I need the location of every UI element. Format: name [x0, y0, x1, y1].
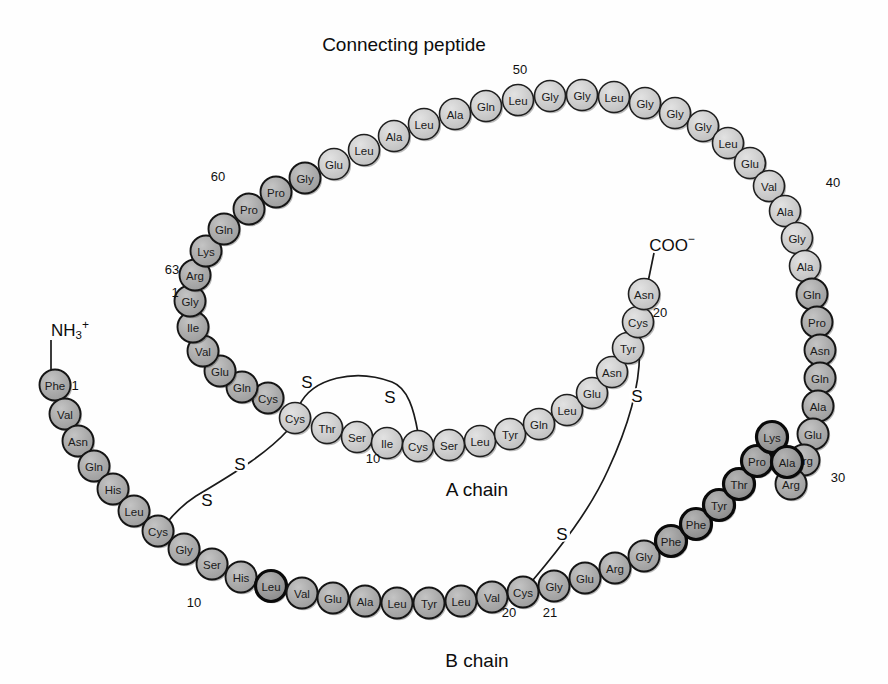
- disulfide-bond-a-b-interchain-1: [165, 430, 288, 525]
- connecting-peptide-residue: Ala: [790, 251, 823, 284]
- residue-label: Gly: [788, 233, 806, 245]
- residue-label: Leu: [387, 598, 406, 610]
- residue-label: Cys: [148, 526, 168, 538]
- sulfur-label: S: [301, 373, 312, 392]
- connecting-peptide-residue: Pro: [261, 177, 294, 210]
- residue-number: 20: [502, 605, 516, 620]
- b-chain-residue: Tyr: [414, 588, 447, 621]
- residue-label: Cys: [513, 587, 533, 599]
- b-chain-residue: Phe: [40, 370, 73, 403]
- connecting-peptide-residue: Gly: [630, 88, 663, 121]
- connecting-peptide-residue: Leu: [409, 109, 442, 142]
- residue-label: Tyr: [502, 429, 518, 441]
- residue-label: Thr: [730, 479, 747, 491]
- residue-label: Ser: [348, 432, 366, 444]
- residue-label: Ala: [386, 131, 403, 143]
- residue-number: 20: [653, 305, 667, 320]
- connecting-peptide-residue: Ala: [440, 99, 473, 132]
- residue-label: Tyr: [711, 500, 727, 512]
- b-chain-residue: Val: [287, 578, 320, 611]
- residue-label: Gln: [530, 419, 548, 431]
- b-chain-residue: Gly: [539, 571, 572, 604]
- residue-label: Gly: [296, 173, 314, 185]
- residue-label: Gly: [636, 98, 654, 110]
- a-chain-label: A chain: [446, 479, 508, 500]
- c-terminus-base: COO: [649, 236, 688, 255]
- residue-label: Leu: [414, 119, 433, 131]
- residue-number: 10: [187, 595, 201, 610]
- residue-label: Glu: [325, 159, 343, 171]
- c-terminus-label: COO−: [649, 232, 695, 255]
- residue-label: His: [233, 572, 250, 584]
- residue-label: Arg: [606, 563, 624, 575]
- residue-label: Gln: [215, 224, 233, 236]
- n-terminus-base: NH: [51, 321, 76, 340]
- residue-label: Leu: [718, 138, 737, 150]
- residue-label: Ala: [810, 401, 827, 413]
- residue-label: Lys: [763, 432, 781, 444]
- b-chain-residue: Arg: [600, 553, 633, 586]
- residue-label: Gly: [545, 581, 563, 593]
- residue-label: Gln: [85, 461, 103, 473]
- b-chain-residue: Leu: [446, 586, 479, 619]
- residue-label: Glu: [576, 573, 594, 585]
- terminus-stem-layer: [51, 253, 654, 372]
- residue-label: Asn: [634, 289, 654, 301]
- sulfur-label: S: [234, 455, 245, 474]
- b-chain-residue: Leu: [256, 571, 289, 604]
- sulfur-label: S: [384, 388, 395, 407]
- residue-label: Ser: [440, 440, 458, 452]
- residue-label: Gly: [573, 90, 591, 102]
- residue-label: Ala: [447, 109, 464, 121]
- sulfur-label: S: [556, 525, 567, 544]
- residue-label: Tyr: [620, 343, 636, 355]
- a-chain-residue: Tyr: [495, 419, 528, 452]
- residue-label: Leu: [470, 436, 489, 448]
- residue-label: Val: [761, 181, 777, 193]
- connecting-peptide-residue: Gly: [290, 163, 323, 196]
- n-terminus-superscript: +: [82, 318, 89, 332]
- residue-label: Leu: [261, 581, 280, 593]
- residue-label: Cys: [628, 317, 648, 329]
- b-chain-residue: Leu: [382, 588, 415, 621]
- residue-label: Pro: [748, 456, 766, 468]
- residue-label: Gly: [694, 121, 712, 133]
- residue-label: Phe: [45, 380, 65, 392]
- residue-label: Gly: [635, 551, 653, 563]
- residue-label: Phe: [686, 519, 706, 531]
- residue-label: Asn: [810, 345, 830, 357]
- residue-label: Gly: [181, 296, 199, 308]
- a-chain-residue: Ser: [434, 430, 467, 463]
- connecting-peptide-residue: Ala: [379, 121, 412, 154]
- residue-number: 30: [831, 470, 845, 485]
- connecting-peptide-residue: Gly: [567, 80, 600, 113]
- connecting-peptide-residue: Leu: [503, 85, 536, 118]
- b-chain-residue: Ala: [350, 586, 383, 619]
- residue-label: Arg: [186, 270, 204, 282]
- residue-label: Cys: [258, 393, 278, 405]
- residue-label: Gln: [233, 382, 251, 394]
- residue-label: Thr: [318, 423, 335, 435]
- residue-label: Val: [484, 592, 500, 604]
- b-chain-label: B chain: [445, 650, 508, 671]
- residue-number: 63: [165, 262, 179, 277]
- a-chain-residues: CysThrSerIleCysSerLeuTyrGlnLeuGluAsnTyrC…: [280, 279, 662, 464]
- residue-label: Pro: [267, 187, 285, 199]
- residue-label: Val: [294, 588, 310, 600]
- residue-number: 1: [171, 285, 178, 300]
- c-terminus-superscript: −: [688, 232, 695, 246]
- residue-label: Gln: [803, 289, 821, 301]
- proinsulin-diagram-canvas: CysGlnGluValIleGlyArgLysGlnProProGlyGluL…: [0, 0, 888, 684]
- residue-label: Tyr: [421, 598, 437, 610]
- residue-label: Ile: [381, 438, 393, 450]
- n-terminus-label: NH3+: [51, 318, 89, 341]
- residue-label: Gln: [477, 101, 495, 113]
- connecting-peptide-title: Connecting peptide: [322, 34, 486, 55]
- residue-label: Glu: [583, 388, 601, 400]
- residue-label: Gly: [541, 91, 559, 103]
- residue-number: 50: [513, 62, 527, 77]
- residue-number: 60: [211, 169, 225, 184]
- residue-label: Ala: [779, 457, 796, 469]
- residue-label: Pro: [808, 317, 826, 329]
- residue-label: Glu: [324, 593, 342, 605]
